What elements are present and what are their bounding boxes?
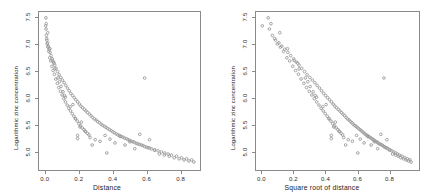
data-point [45, 34, 48, 37]
y-tick-mark [35, 125, 38, 126]
y-tick-label: 7.0 [23, 41, 32, 47]
x-tick-mark [45, 171, 46, 174]
data-point [308, 90, 311, 93]
y-tick-mark [35, 17, 38, 18]
data-point [305, 86, 308, 89]
x-tick-label: 0.8 [176, 176, 185, 182]
plot-area-right [255, 11, 420, 171]
data-point [58, 73, 61, 76]
data-point [307, 80, 310, 83]
data-point [148, 138, 151, 141]
data-point [143, 77, 146, 80]
x-tick-mark [181, 171, 182, 174]
data-point [306, 73, 309, 76]
data-point [278, 31, 281, 34]
y-tick-mark [252, 17, 255, 18]
data-point [383, 77, 386, 80]
data-point [68, 89, 71, 92]
data-point [318, 87, 321, 90]
x-tick-mark [79, 171, 80, 174]
data-point [287, 51, 290, 54]
data-point [289, 54, 292, 57]
data-point [76, 137, 79, 140]
x-tick-mark [390, 171, 391, 174]
data-point [286, 47, 289, 50]
y-tick-label: 7.5 [23, 14, 32, 20]
data-point [370, 144, 373, 147]
data-point [320, 89, 323, 92]
data-point [311, 79, 314, 82]
y-axis-title-right: Logarithmic zinc concentration [230, 66, 236, 150]
y-axis-title-left: Logarithmic zinc concentration [13, 66, 19, 150]
data-point [282, 50, 285, 53]
data-point [180, 156, 183, 159]
scatter-points-right [256, 12, 419, 170]
data-point [59, 90, 62, 93]
data-point [359, 138, 362, 141]
x-tick-label: 0.6 [353, 176, 362, 182]
panel-distance: 0.00.20.40.60.8 5.05.56.06.57.07.5 Logar… [0, 0, 214, 196]
data-point [401, 155, 404, 158]
data-point [56, 82, 59, 85]
data-point [105, 152, 108, 155]
data-point [386, 138, 389, 141]
data-point [304, 77, 307, 80]
data-point [163, 152, 166, 155]
data-point [315, 101, 318, 104]
y-tick-label: 5.5 [240, 122, 249, 128]
data-point [316, 84, 319, 87]
data-point [276, 43, 279, 46]
data-point [313, 97, 316, 100]
data-point [72, 103, 75, 106]
y-tick-label: 7.5 [240, 14, 249, 20]
x-tick-label: 0.2 [74, 176, 83, 182]
y-tick-label: 5.0 [23, 149, 32, 155]
data-point [311, 94, 314, 97]
data-point [91, 144, 94, 147]
data-point [294, 69, 297, 72]
data-point [167, 153, 170, 156]
data-point [94, 138, 97, 141]
x-tick-label: 0.6 [142, 176, 151, 182]
x-tick-label: 0.0 [257, 176, 266, 182]
data-point [114, 142, 117, 145]
data-point [124, 144, 127, 147]
data-point [76, 134, 79, 137]
data-point [138, 133, 141, 136]
data-point [61, 79, 64, 82]
data-point [376, 147, 379, 150]
figure-two-scatter-panels: 0.00.20.40.60.8 5.05.56.06.57.07.5 Logar… [0, 0, 429, 196]
data-point [71, 112, 74, 115]
data-point [53, 73, 56, 76]
data-point [347, 138, 350, 141]
x-tick-mark [113, 171, 114, 174]
data-point [267, 17, 270, 20]
data-point [160, 151, 163, 154]
data-point [363, 142, 366, 145]
y-tick-label: 7.0 [240, 41, 249, 47]
data-point [88, 134, 91, 137]
data-point [270, 22, 273, 25]
y-tick-label: 6.5 [23, 68, 32, 74]
data-point [57, 86, 60, 89]
data-point [73, 115, 76, 118]
data-point [45, 17, 48, 20]
data-point [64, 101, 67, 104]
data-point [49, 60, 52, 63]
data-point [380, 133, 383, 136]
data-point [170, 154, 173, 157]
data-point [175, 155, 178, 158]
data-point [313, 81, 316, 84]
data-point [66, 87, 69, 90]
data-point [46, 31, 49, 34]
data-point [59, 76, 62, 79]
data-point [51, 65, 54, 68]
data-point [300, 78, 303, 81]
y-tick-mark [252, 44, 255, 45]
y-tick-mark [35, 152, 38, 153]
data-point [273, 37, 276, 40]
data-point [324, 112, 327, 115]
y-tick-mark [252, 98, 255, 99]
data-point [325, 103, 328, 106]
data-point [104, 134, 107, 137]
